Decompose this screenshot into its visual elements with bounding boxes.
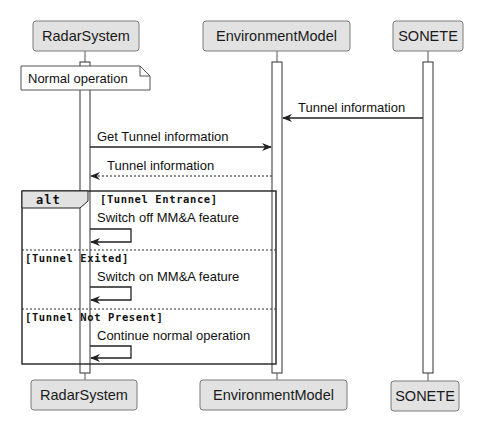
self-message-label: Switch off MM&A feature — [97, 210, 239, 225]
self-message-arrow — [90, 229, 131, 242]
guard-tunnel-exited: [Tunnel Exited] — [25, 252, 129, 264]
self-message-label: Continue normal operation — [97, 328, 250, 343]
alt-fragment: alt [Tunnel Entrance] Switch off MM&A fe… — [22, 191, 276, 364]
message-label: Tunnel information — [298, 100, 405, 115]
self-message-arrow — [90, 287, 131, 300]
sequence-diagram: RadarSystem EnvironmentModel SONETE Norm… — [0, 0, 480, 429]
message-get-tunnel-information: Get Tunnel information — [90, 129, 271, 147]
message-tunnel-information-sonete: Tunnel information — [283, 100, 423, 118]
participant-radarsystem-top[interactable]: RadarSystem — [33, 21, 139, 51]
participant-label: EnvironmentModel — [213, 387, 334, 403]
participant-radarsystem-bottom[interactable]: RadarSystem — [31, 380, 137, 410]
self-message-arrow — [90, 346, 131, 358]
activation-sonete — [423, 62, 433, 373]
guard-tunnel-not-present: [Tunnel Not Present] — [25, 311, 163, 323]
participant-environmentmodel-bottom[interactable]: EnvironmentModel — [200, 380, 347, 410]
activation-radarsystem — [80, 62, 90, 373]
participant-label: RadarSystem — [42, 28, 130, 44]
message-label: Tunnel information — [107, 158, 214, 173]
message-tunnel-information-reply: Tunnel information — [91, 158, 272, 176]
participant-label: SONETE — [395, 388, 455, 404]
self-message-label: Switch on MM&A feature — [97, 269, 239, 284]
participant-label: SONETE — [398, 28, 458, 44]
alt-label: alt — [36, 193, 61, 207]
guard-tunnel-entrance: [Tunnel Entrance] — [100, 193, 218, 205]
note-text: Normal operation — [28, 71, 128, 86]
participant-sonete-top[interactable]: SONETE — [393, 21, 463, 51]
participant-label: RadarSystem — [40, 387, 128, 403]
participant-sonete-bottom[interactable]: SONETE — [391, 381, 459, 411]
participant-label: EnvironmentModel — [216, 28, 337, 44]
activation-environmentmodel — [272, 62, 282, 373]
note-normal-operation: Normal operation — [21, 66, 150, 90]
message-label: Get Tunnel information — [97, 129, 229, 144]
participant-environmentmodel-top[interactable]: EnvironmentModel — [203, 21, 350, 51]
